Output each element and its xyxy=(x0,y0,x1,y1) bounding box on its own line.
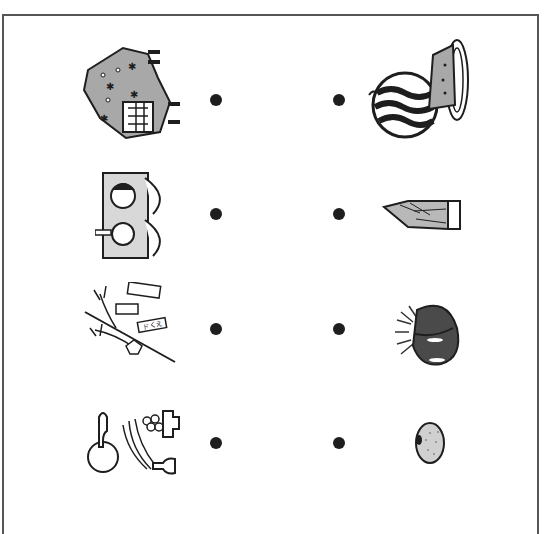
svg-text:✱: ✱ xyxy=(128,61,136,72)
right-dot-3[interactable] xyxy=(333,323,345,335)
tanabata-bamboo-icon[interactable]: ドくえ xyxy=(80,282,180,367)
right-dot-4[interactable] xyxy=(333,437,345,449)
bamboo-shoot-icon[interactable] xyxy=(380,195,465,235)
egg-icon[interactable] xyxy=(410,418,450,468)
svg-text:✱: ✱ xyxy=(130,89,138,100)
right-dot-1[interactable] xyxy=(333,94,345,106)
watermelon-icon[interactable] xyxy=(365,35,475,145)
left-dot-4[interactable] xyxy=(210,437,222,449)
left-dot-3[interactable] xyxy=(210,323,222,335)
svg-text:✱: ✱ xyxy=(100,113,108,124)
left-dot-1[interactable] xyxy=(210,94,222,106)
hina-dolls-icon[interactable] xyxy=(95,168,175,263)
svg-text:✱: ✱ xyxy=(106,81,114,92)
setsubun-oni-icon[interactable]: ✱ ✱ ✱ ✱ xyxy=(78,40,188,140)
chestnut-icon[interactable] xyxy=(395,300,465,370)
left-dot-2[interactable] xyxy=(210,208,222,220)
tsukimi-dango-icon[interactable] xyxy=(85,405,190,485)
right-dot-2[interactable] xyxy=(333,208,345,220)
